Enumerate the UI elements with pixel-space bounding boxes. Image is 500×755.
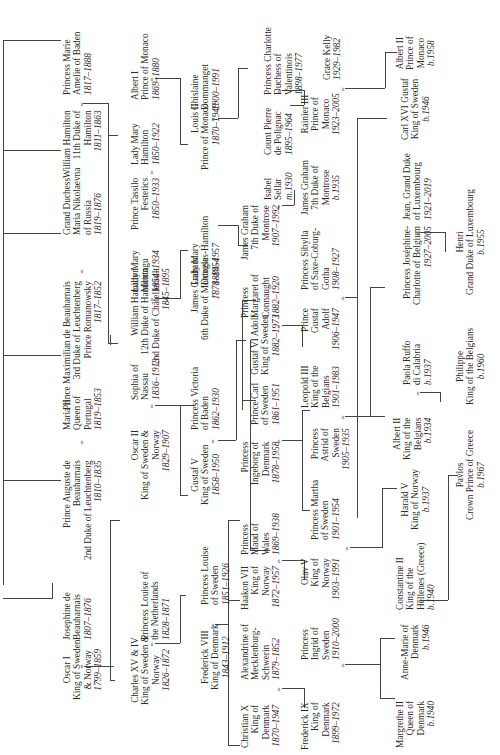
name: Isabel (263, 172, 273, 200)
title: King of Sweden (410, 78, 420, 140)
dates: 1929–1982 (332, 35, 342, 80)
name: Princess Sibylla (300, 228, 310, 290)
connector (108, 103, 109, 343)
dates: 1903–1991 (331, 558, 341, 600)
person-jean: Jean, Grand Duke of Luxembourg 1921–2019 (402, 153, 433, 220)
connector (345, 664, 380, 665)
title: King of Sweden & (140, 430, 150, 500)
person-olav5: Olav V King of Norway 1903–1991 (300, 558, 341, 600)
title: Maud of (250, 513, 260, 555)
person-haakon7: Haakon VII King of Norway 1872–1957 (240, 566, 281, 610)
person-harald5: Harald V King of Norway b.1937 (400, 469, 431, 530)
connector (420, 392, 440, 393)
connector (282, 205, 294, 206)
marriage-symbol: = (339, 415, 348, 420)
dates: 1810–1835 (93, 460, 103, 560)
dates: 1799–1859 (93, 640, 103, 700)
dates: 1828–1871 (161, 571, 171, 640)
title: Astrid of (320, 428, 330, 470)
connector (83, 103, 109, 104)
name: Henri (455, 189, 465, 295)
dates: 1900–1991 (211, 64, 221, 110)
name: Princess Victoria (190, 367, 200, 430)
person-josephine-charlotte: Princess Joséphine- Charlotte of Belgium… (402, 226, 433, 305)
title: Montrose (261, 205, 271, 260)
person-philippe: Philippe King of the Belgians b.1960 (455, 328, 486, 405)
title: King of the (402, 418, 412, 460)
dates: 1905–1935 (341, 428, 351, 470)
title: & Norway (83, 640, 93, 700)
connector (282, 325, 302, 326)
connector (236, 340, 237, 440)
title: Crown Prince of Greece (465, 430, 475, 520)
name: Princess (300, 618, 310, 660)
title: Prince of Monaco (140, 33, 150, 100)
person-ingeborg: Princess Ingeborg of Denmark 1878–1958 (240, 442, 281, 485)
title: Duchess of (273, 27, 283, 95)
name: Albert II (392, 418, 402, 460)
person-maud: Princess Maud of Wales 1869–1938 (240, 513, 281, 555)
name: Princess Louise of (140, 571, 150, 640)
title: Gustaf (310, 308, 320, 350)
title: di Calabria (412, 340, 422, 385)
name: Paola Ruffo (402, 340, 412, 385)
person-oscar1: Oscar I King of Sweden & Norway 1799–185… (62, 640, 103, 700)
dates: 1908–1927 (331, 228, 341, 290)
name: Frederick IX (300, 702, 310, 750)
connector (302, 410, 303, 510)
title: Douglas-Hamilton (200, 216, 210, 285)
title: Queen of (405, 701, 415, 748)
dates: 1879–1852 (271, 624, 281, 680)
marriage-symbol: = (148, 404, 157, 409)
marriage-symbol: = (209, 117, 218, 122)
name: Rainier III (300, 93, 310, 135)
dates: 1878–1958 (271, 442, 281, 485)
dates: 1884–1957 (211, 216, 221, 285)
title: of Luxembourg (412, 153, 422, 220)
person-margrethe2: Margrethe II Queen of Denmark b.1940 (395, 701, 436, 748)
dates: 1807–1876 (83, 592, 93, 640)
connector (3, 40, 61, 41)
dates: b.1946 (421, 625, 431, 681)
title: King of the Belgians (465, 328, 475, 405)
dates: b.1940 (426, 701, 436, 748)
person-james7a: James Graham 7th Duke of Montrose 1907–1… (240, 205, 281, 260)
dates: b.1934 (423, 418, 433, 460)
person-albert2-be: Albert II King of the Belgians b.1934 (392, 418, 433, 460)
title: Sweden (321, 618, 331, 660)
name: Princess Louise (200, 546, 210, 605)
dates: 1817–1888 (83, 31, 93, 95)
title: Montagu (140, 250, 150, 292)
title: Charlotte of Belgium (412, 226, 422, 305)
name: Gustaf VI Adolf (250, 315, 260, 375)
name: Prince Maximilian de Beauharnais (62, 281, 72, 410)
dates: b.1935 (331, 160, 341, 215)
marriage-symbol: = (148, 170, 157, 175)
connector (180, 250, 181, 298)
title: King of (310, 558, 320, 600)
name: Princess Charlotte (263, 27, 273, 95)
title: Ingeborg of (250, 442, 260, 485)
connector (3, 598, 53, 599)
marriage-symbol: = (339, 87, 348, 92)
connector (110, 520, 111, 666)
name: Christian X (240, 705, 250, 748)
connector (380, 638, 395, 639)
connector (110, 335, 111, 345)
person-albert2-mc: Albert II Prince of Monaco b.1958 (395, 36, 436, 70)
title: Denmark (321, 702, 331, 750)
person-paola: Paola Ruffo di Calabria b.1937 (402, 340, 433, 385)
name: Olav V (300, 558, 310, 600)
connector (385, 52, 386, 88)
title: of Baden (200, 367, 210, 430)
connector (180, 405, 181, 495)
marriage-symbol: = (275, 89, 284, 94)
person-louise-nl: Princess Louise of the Netherlands 1828–… (140, 571, 171, 640)
dates: 1872–1957 (271, 566, 281, 610)
dates: 1901–1954 (331, 480, 341, 540)
dates: b.1937 (421, 469, 431, 530)
connector (3, 150, 61, 151)
connector (302, 410, 310, 411)
dates: 1923–2005 (331, 93, 341, 135)
name: James Graham (300, 160, 310, 215)
